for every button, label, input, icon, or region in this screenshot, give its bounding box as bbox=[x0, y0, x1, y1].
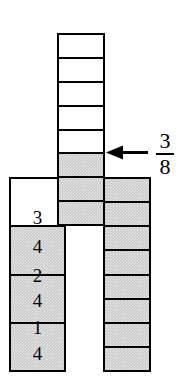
center-cell-2 bbox=[59, 59, 103, 83]
fourths-cell-3 bbox=[11, 276, 64, 324]
right-cell-5 bbox=[105, 276, 149, 300]
right-cell-6 bbox=[105, 300, 149, 324]
right-cell-3 bbox=[105, 227, 149, 251]
right-cell-1 bbox=[105, 179, 149, 203]
left-arrow-icon bbox=[106, 145, 148, 160]
center-cell-7 bbox=[59, 178, 103, 202]
center-cell-3 bbox=[59, 83, 103, 107]
center-cell-6 bbox=[59, 154, 103, 178]
right-cell-8 bbox=[105, 348, 149, 370]
eighths-column-center bbox=[57, 33, 105, 226]
fourths-cell-4 bbox=[11, 324, 64, 370]
center-cell-1 bbox=[59, 35, 103, 59]
center-cell-8 bbox=[59, 202, 103, 224]
callout-denominator: 8 bbox=[152, 156, 178, 178]
right-cell-2 bbox=[105, 203, 149, 227]
eighths-column-right bbox=[103, 177, 151, 372]
right-cell-7 bbox=[105, 324, 149, 348]
callout-fraction-three-eighths: 3 8 bbox=[152, 130, 178, 179]
center-cell-4 bbox=[59, 107, 103, 131]
fourths-cell-2 bbox=[11, 227, 64, 275]
center-cell-5 bbox=[59, 131, 103, 155]
fraction-diagram: 3 4 2 4 1 4 3 8 bbox=[0, 0, 179, 388]
callout-numerator: 3 bbox=[152, 130, 178, 152]
right-cell-4 bbox=[105, 251, 149, 275]
